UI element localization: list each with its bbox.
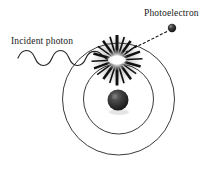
figure-canvas: Photoelectron Incident photon [0,0,220,170]
starburst-flash [92,35,143,86]
incident-photon-label: Incident photon [11,37,73,47]
photoelectric-effect-diagram [0,0,220,170]
photoelectron-particle [168,24,176,32]
photoelectron-label: Photoelectron [144,9,199,19]
nucleus [108,90,130,116]
